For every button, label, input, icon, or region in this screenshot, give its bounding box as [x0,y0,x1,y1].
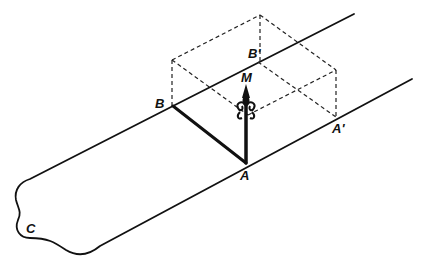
diagram-canvas: M B' B A A' C [0,0,424,265]
label-M: M [241,70,253,85]
label-C: C [26,221,36,236]
label-B: B [155,96,164,111]
dashed-box [172,15,336,117]
arrow-head-icon [242,84,250,98]
label-A-prime: A' [331,121,345,136]
segment-BA [173,106,246,163]
strip-upper-edge [16,14,412,254]
label-A: A [239,168,249,183]
label-B-prime: B' [248,46,261,61]
